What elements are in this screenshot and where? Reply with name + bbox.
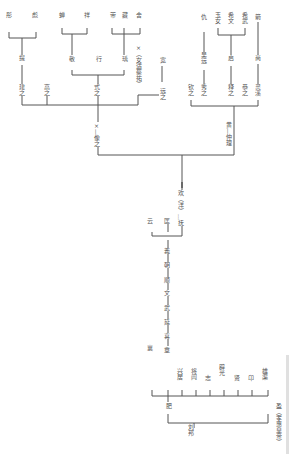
node-label-qinzhi: 钦之 bbox=[187, 84, 194, 96]
node-label-wen: 文 bbox=[163, 290, 170, 296]
node-label-ying: 盈（孝惠皇帝） bbox=[275, 403, 282, 445]
node-label-yuanzhi: 远之 bbox=[159, 88, 166, 100]
node-label-chao: 朝 bbox=[163, 262, 170, 268]
node-label-xiwen: 希文 bbox=[227, 12, 234, 24]
node-label-xiongqu: 雄渠 bbox=[261, 368, 268, 380]
node-label-xi: 喜 bbox=[163, 333, 170, 339]
node-label-liubang: 刘邦 bbox=[187, 424, 194, 436]
node-label-she: 舍 bbox=[135, 12, 142, 18]
node-label-wu: 武 bbox=[163, 305, 170, 311]
node-label-shizhi: 式之 bbox=[93, 84, 100, 96]
node-label-jian: 箭 bbox=[254, 14, 261, 20]
node-label-qi: 启 bbox=[227, 55, 234, 61]
node-label-wuyuan: 吴远 bbox=[200, 52, 207, 64]
node-label-biao: 彪 bbox=[31, 12, 38, 18]
tree-connector-lines bbox=[0, 0, 296, 454]
node-label-shizhi2: 释之 bbox=[227, 84, 234, 96]
genealogy-diagram: 刘邦肥盈（孝惠皇帝）襄章兴居将闾志辟光贤卬雄渠喜延武文顺朝義云匡欢（洋）…抚×—… bbox=[0, 0, 296, 454]
node-label-jing: 敬 bbox=[68, 56, 75, 62]
node-label-kuang: 匡 bbox=[163, 218, 170, 224]
node-label-fei: 肥 bbox=[165, 403, 172, 409]
node-label-shang: 尚 bbox=[254, 55, 261, 61]
node-label-xxiang: ×—像之 bbox=[93, 122, 100, 147]
node-label-ti: 提 bbox=[18, 55, 25, 61]
node-label-xiang2: 祥 bbox=[83, 12, 90, 18]
node-label-gaozhi: 高之 bbox=[43, 84, 50, 96]
node-label-yun: 云 bbox=[146, 218, 153, 224]
node-label-zhi: 志 bbox=[204, 375, 211, 381]
node-label-cang: 藏 bbox=[121, 12, 128, 18]
node-label-xing: 行 bbox=[95, 56, 102, 62]
node-label-jianzhi: 建之 bbox=[18, 84, 25, 96]
node-label-ang: 卬 bbox=[247, 375, 254, 381]
node-label-yunv: 玉女 bbox=[214, 12, 221, 24]
node-label-gongzhi: 恭之 bbox=[241, 84, 248, 96]
node-label-xiuzhi: 秀之 bbox=[200, 84, 207, 96]
node-label-xiang: 襄 bbox=[146, 345, 153, 351]
node-label-chan: 蝉 bbox=[58, 12, 65, 18]
node-label-lingxi: 灵溪 bbox=[254, 84, 261, 96]
node-label-xiwu: 希武 bbox=[241, 12, 248, 24]
node-label-shun: 顺 bbox=[163, 277, 170, 283]
node-label-xingju: 兴居 bbox=[176, 368, 183, 380]
node-label-yu: 瑀 bbox=[121, 56, 128, 62]
node-label-jianglu: 将闾 bbox=[190, 368, 197, 380]
node-label-yan: 延 bbox=[163, 319, 170, 325]
node-label-huan: 欢（洋）…抚 bbox=[177, 190, 184, 226]
node-label-xian: 贤 bbox=[233, 375, 240, 381]
node-label-xnv: ×（女适蔡祐） bbox=[135, 44, 142, 87]
node-label-yuanchild: 宽 bbox=[159, 57, 166, 63]
node-label-dai: 带 bbox=[109, 12, 116, 18]
node-label-piguang: 辟光 bbox=[218, 364, 225, 376]
node-label-zhang: 章 bbox=[163, 347, 170, 353]
node-label-chou: 仇 bbox=[200, 14, 207, 20]
node-label-huang: 黄—仲理 bbox=[225, 122, 232, 146]
page-edge-shadow bbox=[286, 355, 289, 454]
node-label-yi: 義 bbox=[163, 248, 170, 254]
node-label-tong: 彤 bbox=[5, 12, 12, 18]
